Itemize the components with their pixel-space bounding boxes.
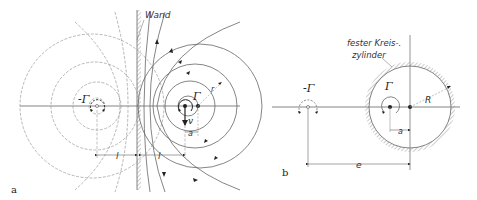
vortex-b: Γ a (382, 80, 410, 136)
distance-e-label: e (356, 160, 362, 170)
left-vortex-label: -Γ (78, 93, 90, 106)
image-vortex-b-label: -Γ (303, 82, 315, 95)
cylinder-label-line1: fester Kreis-. (347, 38, 401, 48)
distance-l-left-label: l (116, 151, 119, 161)
radius-r-label: r (211, 85, 215, 94)
distance-e-dimension: e (308, 109, 410, 170)
velocity-label: v (188, 116, 193, 126)
wall-label-text: Wand (145, 10, 171, 20)
vortex-b-label: Γ (384, 80, 393, 93)
right-vortex-label: Γ (192, 90, 201, 103)
right-vortex: Γ v r a (178, 82, 222, 138)
offset-a-label: a (188, 129, 193, 138)
distance-l-right-label: l (158, 151, 161, 161)
cylinder-label: fester Kreis-. zylinder (347, 38, 401, 67)
panel-a-label: a (11, 184, 17, 195)
wall-label: Wand (137, 10, 171, 40)
cylinder-label-line2: zylinder (351, 50, 386, 60)
flow-arrows (155, 39, 218, 182)
panel-a: -Γ Γ v r a l l (11, 10, 262, 195)
panel-b: R Γ a -Γ e fester Kreis-. (272, 35, 460, 178)
left-vortex: -Γ (78, 93, 105, 112)
figure-canvas: -Γ Γ v r a l l (0, 0, 477, 200)
offset-a-b-label: a (398, 127, 403, 136)
panel-b-label: b (282, 167, 288, 178)
radius-R-label: R (425, 95, 431, 105)
wall (137, 10, 141, 190)
